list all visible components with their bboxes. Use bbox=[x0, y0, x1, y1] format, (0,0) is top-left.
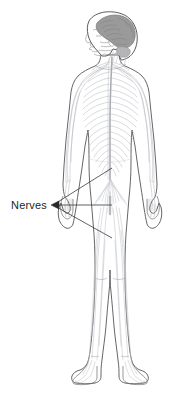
nerves-label: Nerves bbox=[11, 199, 47, 211]
nervous-system-illustration: Nerves bbox=[0, 0, 179, 401]
nerves-diagram: Nerves bbox=[0, 0, 179, 401]
